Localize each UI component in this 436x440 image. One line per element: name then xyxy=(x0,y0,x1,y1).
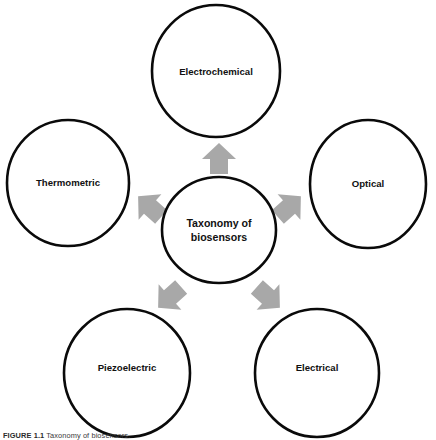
arrow-down-right-icon xyxy=(245,274,291,320)
node-piezoelectric[interactable]: Piezoelectric xyxy=(64,309,190,437)
node-label-thermometric: Thermometric xyxy=(36,177,101,188)
node-label-electrical: Electrical xyxy=(296,362,339,373)
center-label-line1: Taxonomy of xyxy=(186,217,252,229)
node-optical[interactable]: Optical xyxy=(310,120,426,248)
node-electrochemical[interactable]: Electrochemical xyxy=(152,5,280,137)
center-label-line2: biosensors xyxy=(191,231,248,243)
figure-container: Electrochemical Optical Thermometric Pie… xyxy=(0,0,436,440)
figure-caption: FIGURE 1.1 Taxonomy of biosensors. xyxy=(3,431,130,440)
node-label-optical: Optical xyxy=(352,178,385,189)
node-center-taxonomy[interactable]: Taxonomy of biosensors xyxy=(162,177,276,283)
taxonomy-diagram: Electrochemical Optical Thermometric Pie… xyxy=(0,0,436,440)
figure-caption-text: Taxonomy of biosensors. xyxy=(44,431,130,440)
arrow-to-electrical xyxy=(245,274,291,320)
node-thermometric[interactable]: Thermometric xyxy=(7,120,129,246)
arrow-to-electrochemical xyxy=(202,143,236,174)
node-label-electrochemical: Electrochemical xyxy=(179,66,253,77)
figure-caption-label: FIGURE 1.1 xyxy=(3,431,44,440)
node-circle-electrical xyxy=(255,309,379,437)
arrow-up-icon xyxy=(202,143,236,174)
node-circle-piezoelectric xyxy=(64,309,190,437)
node-circle-center xyxy=(162,177,276,283)
node-label-piezoelectric: Piezoelectric xyxy=(98,362,157,373)
node-electrical[interactable]: Electrical xyxy=(255,309,379,437)
